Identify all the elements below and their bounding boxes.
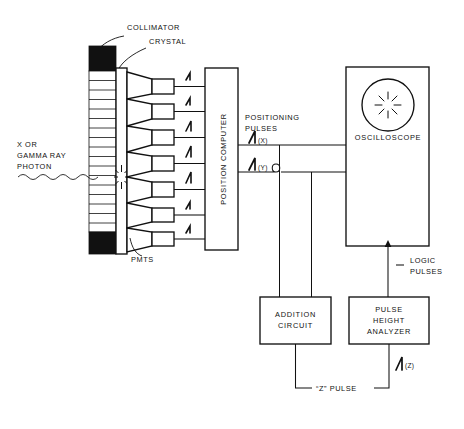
logic-pulses-path: LOGIC PULSES <box>385 240 443 297</box>
pulse-symbol-z <box>396 357 402 370</box>
diagram-canvas: COLLIMATOR CRYSTAL <box>0 0 464 429</box>
position-computer-box: POSITION COMPUTER <box>205 68 238 250</box>
positioning-pulses-annotation: POSITIONING PULSES <box>245 113 300 133</box>
collimator-assembly <box>89 46 116 254</box>
pha-line2: HEIGHT <box>373 316 405 325</box>
pmts-label: PMTS <box>131 255 154 264</box>
pulse-symbol-4 <box>186 146 191 157</box>
z-pulse-path: “Z” PULSE (Z) <box>296 344 415 394</box>
logic-pulses-line1: LOGIC <box>410 256 436 265</box>
photon-label-line1: X OR <box>17 140 37 149</box>
pmt-4-lightguide <box>127 152 152 177</box>
pmt-6 <box>127 203 205 228</box>
pulse-symbol-6 <box>186 202 190 209</box>
oscilloscope-box: OSCILLOSCOPE <box>346 67 429 246</box>
addition-circuit-line1: ADDITION <box>275 310 316 319</box>
pha-line3: ANALYZER <box>367 327 411 336</box>
pulse-symbol-7 <box>186 226 190 233</box>
pulse-symbol-2 <box>186 98 190 105</box>
pulse-symbol-y <box>249 158 255 170</box>
collimator-top-shield <box>89 46 116 71</box>
pmt-7 <box>127 228 205 252</box>
pmt-3-lightguide <box>127 126 152 152</box>
pmt-5 <box>127 177 205 203</box>
crystal-callout: CRYSTAL <box>118 37 186 70</box>
gamma-camera-diagram: COLLIMATOR CRYSTAL <box>0 0 464 429</box>
addition-circuit-line2: CIRCUIT <box>278 321 313 330</box>
pulse-symbol-1 <box>186 73 190 80</box>
pmt-5-tube <box>152 182 174 197</box>
crystal-label: CRYSTAL <box>149 37 186 46</box>
pmt-2 <box>127 99 205 126</box>
pulse-symbol-3 <box>186 121 191 131</box>
pmt-7-tube <box>152 232 174 246</box>
pulse-y-label: (Y) <box>258 164 268 172</box>
collimator-body <box>89 71 116 232</box>
logic-pulses-line2: PULSES <box>410 267 442 276</box>
pmt-1-lightguide <box>127 72 152 99</box>
photon-label-line2: GAMMA RAY <box>17 151 66 160</box>
crystal-leader-line <box>118 48 146 70</box>
incoming-photon: X OR GAMMA RAY PHOTON <box>17 140 98 180</box>
addition-circuit-inputs <box>280 145 312 297</box>
pulse-symbol-5 <box>186 172 191 183</box>
pmt-2-tube <box>152 104 174 119</box>
pmt-1 <box>127 72 205 99</box>
amplifier-pulse-symbols <box>186 73 191 233</box>
pmt-4-tube <box>152 156 174 171</box>
positioning-pulses-line2: PULSES <box>245 124 277 133</box>
position-computer-label: POSITION COMPUTER <box>219 113 228 205</box>
pmt-3 <box>127 126 205 152</box>
pmt-6-lightguide <box>127 203 152 228</box>
pmt-4 <box>127 152 205 177</box>
pmt-5-lightguide <box>127 177 152 203</box>
pulse-height-analyzer-box: PULSE HEIGHT ANALYZER <box>349 297 429 344</box>
positioning-pulses-line1: POSITIONING <box>245 113 300 122</box>
photon-wave-icon <box>18 175 98 180</box>
addition-circuit-box: ADDITION CIRCUIT <box>260 297 331 344</box>
scintillation-crystal <box>116 68 127 254</box>
oscilloscope-label: OSCILLOSCOPE <box>355 133 421 142</box>
pmt-2-lightguide <box>127 99 152 126</box>
oscilloscope-crt <box>362 79 414 131</box>
pmt-array <box>127 72 205 252</box>
pmt-6-tube <box>152 208 174 222</box>
pha-line1: PULSE <box>375 305 403 314</box>
pmt-1-tube <box>152 79 174 94</box>
photon-label-line3: PHOTON <box>17 162 52 171</box>
pmt-3-tube <box>152 130 174 145</box>
pulse-z-label: (Z) <box>405 362 414 370</box>
z-pulse-label: “Z” PULSE <box>316 384 357 393</box>
crystal-slab <box>116 68 127 254</box>
collimator-bottom-shield <box>89 232 116 254</box>
collimator-label: COLLIMATOR <box>127 23 180 32</box>
pulse-x-label: (X) <box>258 137 268 145</box>
